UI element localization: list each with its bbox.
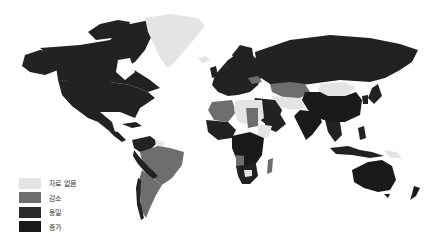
legend-label: 동일	[49, 207, 61, 217]
iceland	[198, 56, 210, 63]
india	[294, 110, 322, 140]
legend-item-same: 동일	[19, 205, 76, 219]
legend-swatch-increase	[19, 221, 41, 232]
map-legend: 자료 없음 감소 동일 증가	[19, 176, 76, 234]
legend-swatch-same	[19, 207, 41, 218]
legend-swatch-no-data	[19, 178, 41, 189]
tasmania	[384, 194, 390, 198]
sudan	[246, 108, 258, 128]
new-zealand	[410, 186, 420, 200]
legend-label: 감소	[49, 193, 61, 203]
horn-of-africa	[258, 124, 272, 138]
legend-item-increase: 증가	[19, 220, 76, 234]
legend-swatch-decrease	[19, 192, 41, 203]
legend-item-decrease: 감소	[19, 191, 76, 205]
russia	[255, 35, 418, 86]
australia	[352, 160, 396, 192]
cuba	[122, 122, 142, 128]
uk	[210, 66, 218, 78]
indonesia	[330, 146, 384, 158]
legend-label: 자료 없음	[49, 178, 76, 188]
central-america	[108, 130, 126, 142]
north-africa-west	[208, 100, 236, 122]
philippines	[358, 126, 366, 140]
papua	[384, 150, 402, 158]
greenland	[145, 14, 205, 68]
south-africa-nodata	[244, 170, 252, 177]
madagascar	[267, 158, 273, 174]
legend-item-no-data: 자료 없음	[19, 176, 76, 190]
korea	[362, 95, 368, 104]
west-africa	[206, 120, 236, 140]
japan	[368, 84, 382, 104]
north-america	[22, 20, 160, 142]
southeast-asia	[325, 120, 342, 142]
legend-label: 증가	[49, 222, 61, 232]
